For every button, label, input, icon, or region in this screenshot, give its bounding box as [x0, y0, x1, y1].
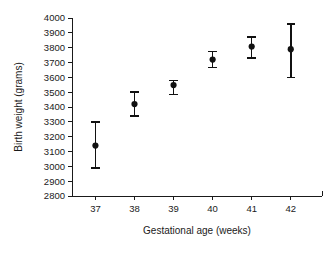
mean-marker — [92, 142, 98, 148]
x-tick-label-40: 40 — [207, 203, 218, 214]
y-tick-label-3100: 3100 — [44, 146, 65, 157]
x-axis-ticks: 373839404142 — [72, 191, 322, 214]
y-tick-label-3000: 3000 — [44, 161, 65, 172]
x-tick-label-38: 38 — [129, 203, 140, 214]
y-tick-label-3400: 3400 — [44, 101, 65, 112]
y-tick-label-3200: 3200 — [44, 131, 65, 142]
y-tick-label-3600: 3600 — [44, 72, 65, 83]
x-tick-label-41: 41 — [246, 203, 257, 214]
y-tick-label-3800: 3800 — [44, 42, 65, 53]
data-points-layer — [91, 24, 295, 168]
mean-marker — [210, 56, 216, 62]
scatter-plot-canvas: 2800290030003100320033003400350036003700… — [0, 0, 336, 255]
x-axis-title: Gestational age (weeks) — [143, 225, 251, 236]
data-point-week-40 — [208, 51, 216, 67]
y-tick-label-3900: 3900 — [44, 27, 65, 38]
mean-marker — [249, 43, 255, 49]
x-tick-label-39: 39 — [168, 203, 179, 214]
y-tick-label-3300: 3300 — [44, 116, 65, 127]
data-point-week-42 — [287, 24, 295, 77]
data-point-week-37 — [91, 122, 99, 168]
y-axis-title: Birth weight (grams) — [13, 62, 24, 151]
y-tick-label-3500: 3500 — [44, 87, 65, 98]
data-point-week-38 — [130, 92, 138, 116]
y-tick-label-2900: 2900 — [44, 176, 65, 187]
data-point-week-41 — [247, 37, 255, 58]
y-tick-label-3700: 3700 — [44, 57, 65, 68]
y-tick-label-2800: 2800 — [44, 190, 65, 201]
y-tick-label-4000: 4000 — [44, 12, 65, 23]
x-tick-label-37: 37 — [90, 203, 101, 214]
mean-marker — [288, 46, 294, 52]
x-tick-label-42: 42 — [285, 203, 296, 214]
mean-marker — [170, 82, 176, 88]
mean-marker — [131, 101, 137, 107]
data-point-week-39 — [169, 80, 177, 94]
y-axis-ticks: 2800290030003100320033003400350036003700… — [44, 12, 72, 201]
chart-figure: 2800290030003100320033003400350036003700… — [0, 0, 336, 255]
